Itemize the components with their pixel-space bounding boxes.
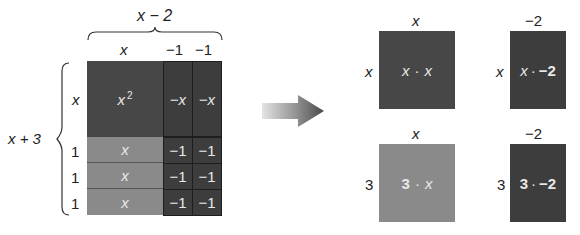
neg-one-label: −1 (198, 168, 215, 185)
product-factor-b: −2 (539, 62, 556, 79)
col-label-x: x (120, 42, 128, 57)
x-tile: x (87, 163, 163, 189)
x-tile-label: x (121, 194, 129, 211)
product-tile-3-times-neg2: 3 · −2 (510, 144, 566, 222)
product-side-label: 3 (497, 177, 505, 192)
x-tile: x (87, 189, 163, 215)
product-factor-b: x (425, 175, 433, 192)
x-squared-base: x (117, 91, 125, 108)
product-side-label: x (365, 64, 373, 79)
neg-one-tile: −1 (192, 189, 222, 216)
product-tile-3-times-x: 3 · x (379, 144, 455, 222)
product-top-label: x (412, 126, 420, 141)
x-tile-label: x (121, 141, 129, 158)
neg-x-label: −x (199, 91, 215, 108)
neg-one-tile: −1 (192, 137, 222, 164)
product-top-label: −2 (525, 13, 542, 28)
neg-x-tile: −x (163, 61, 193, 137)
product-side-label: 3 (365, 177, 373, 192)
product-dot: · (415, 175, 420, 192)
neg-x-tile: −x (192, 61, 222, 137)
product-dot: · (415, 62, 420, 79)
x-squared-tile: x2 (87, 61, 163, 137)
neg-one-label: −1 (198, 194, 215, 211)
product-side-label: x (496, 64, 504, 79)
product-factor-a: x (520, 62, 528, 79)
product-dot: · (531, 62, 536, 79)
row-label-x: x (72, 92, 80, 107)
col-label-neg1-b: −1 (195, 42, 212, 57)
neg-one-tile: −1 (163, 163, 193, 190)
x-squared-exponent: 2 (127, 90, 133, 101)
neg-one-tile: −1 (163, 189, 193, 216)
product-top-label: −2 (525, 126, 542, 141)
neg-one-label: −1 (169, 142, 186, 159)
neg-one-label: −1 (198, 142, 215, 159)
neg-one-label: −1 (169, 194, 186, 211)
row-label-1a: 1 (71, 144, 79, 159)
row-label-1c: 1 (71, 196, 79, 211)
product-factor-b: −2 (539, 175, 556, 192)
product-factor-a: 3 (520, 175, 528, 192)
neg-one-label: −1 (169, 168, 186, 185)
product-tile-x-times-neg2: x · −2 (510, 31, 566, 109)
x-tile-label: x (121, 167, 129, 184)
top-brace-icon (86, 26, 224, 42)
neg-one-tile: −1 (163, 137, 193, 164)
product-tile-x-times-x: x · x (379, 31, 455, 109)
neg-x-label: −x (170, 91, 186, 108)
product-top-label: x (412, 13, 420, 28)
neg-one-tile: −1 (192, 163, 222, 190)
row-label-1b: 1 (71, 170, 79, 185)
arrow-right-icon (260, 94, 326, 128)
side-dimension-label: x + 3 (8, 131, 41, 146)
side-brace-icon (55, 61, 71, 217)
product-factor-a: x (402, 62, 410, 79)
product-factor-a: 3 (402, 175, 410, 192)
col-label-neg1-a: −1 (166, 42, 183, 57)
product-dot: · (531, 175, 536, 192)
top-dimension-label: x − 2 (137, 8, 172, 24)
x-tile: x (87, 137, 163, 163)
product-factor-b: x (425, 62, 433, 79)
